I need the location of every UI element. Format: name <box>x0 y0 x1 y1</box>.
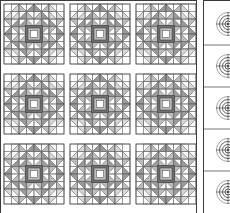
patch-square <box>123 197 131 205</box>
patch-square <box>136 4 144 12</box>
patch-square <box>4 4 12 12</box>
quilt-block-9[interactable] <box>136 144 196 204</box>
quilt-block-4[interactable] <box>4 74 64 134</box>
patch-square <box>4 197 12 205</box>
center-medallion-inner <box>162 170 169 177</box>
patch-square <box>4 57 12 65</box>
center-medallion-inner <box>96 170 103 177</box>
patch-square <box>57 4 65 12</box>
center-medallion-inner <box>30 170 37 177</box>
border-motif-svg <box>203 0 230 213</box>
patch-square <box>123 4 131 12</box>
border-strip-panel <box>203 0 230 213</box>
patch-square <box>70 127 78 135</box>
patch-square <box>189 197 197 205</box>
patch-square <box>70 57 78 65</box>
patch-square <box>70 197 78 205</box>
patch-square <box>136 74 144 82</box>
patch-square <box>57 197 65 205</box>
quilt-block-2[interactable] <box>70 4 130 64</box>
patch-square <box>123 74 131 82</box>
center-medallion-inner <box>30 30 37 37</box>
patch-square <box>189 127 197 135</box>
quilt-block-5[interactable] <box>70 74 130 134</box>
center-medallion-inner <box>162 30 169 37</box>
patch-square <box>57 57 65 65</box>
patch-square <box>70 4 78 12</box>
patch-square <box>136 144 144 152</box>
patch-square <box>189 144 197 152</box>
quilt-block-3[interactable] <box>136 4 196 64</box>
quilt-block-6[interactable] <box>136 74 196 134</box>
center-medallion-inner <box>96 30 103 37</box>
quilt-grid-svg <box>0 0 197 213</box>
patch-square <box>70 144 78 152</box>
patch-square <box>136 197 144 205</box>
patch-square <box>136 127 144 135</box>
quilt-pattern-canvas <box>0 0 230 213</box>
patch-square <box>189 57 197 65</box>
patch-square <box>57 74 65 82</box>
center-medallion-inner <box>30 100 37 107</box>
patch-square <box>123 57 131 65</box>
patch-square <box>57 144 65 152</box>
quilt-block-7[interactable] <box>4 144 64 204</box>
patch-square <box>189 74 197 82</box>
patch-square <box>4 127 12 135</box>
quilt-block-1[interactable] <box>4 4 64 64</box>
quilt-block-8[interactable] <box>70 144 130 204</box>
patch-square <box>123 127 131 135</box>
patch-square <box>57 127 65 135</box>
patch-square <box>4 74 12 82</box>
patch-square <box>189 4 197 12</box>
center-medallion-inner <box>162 100 169 107</box>
patch-square <box>70 74 78 82</box>
patch-square <box>136 57 144 65</box>
patch-square <box>4 144 12 152</box>
center-medallion-inner <box>96 100 103 107</box>
quilt-panel <box>0 0 197 213</box>
patch-square <box>123 144 131 152</box>
